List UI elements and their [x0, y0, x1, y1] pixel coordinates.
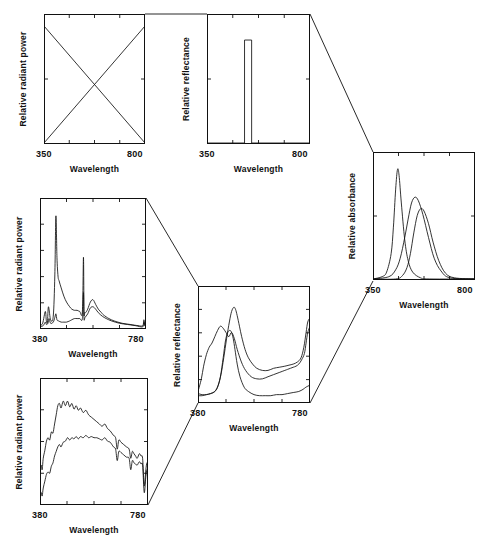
axis-label-y-0: Relative radiant power [18, 31, 28, 126]
axis-label-y-3: Relative radiant power [14, 216, 24, 311]
axis-tick-min-4: 380 [32, 510, 48, 520]
plot-curves [44, 14, 145, 144]
plot-curves [40, 378, 148, 505]
axis-label-y-2: Relative absorbance [347, 173, 357, 259]
panel-reflectance-samples [198, 286, 310, 403]
axis-tick-max-0: 800 [127, 149, 143, 159]
panel-illuminant-schematic [44, 14, 145, 144]
axis-label-y-4: Relative radiant power [14, 394, 24, 489]
panel-daylight-sources [40, 378, 148, 505]
series-lamp-1-triphosphor [40, 216, 146, 327]
axis-label-x-3: Wavelength [40, 349, 146, 359]
connector-samples-to-absorbance [310, 281, 373, 403]
axis-label-x-2: Wavelength [373, 300, 475, 310]
panel-fluorescent-lamps [40, 198, 146, 329]
axis-label-y-1: Relative reflectance [181, 37, 191, 121]
series-daylight-2-low [40, 435, 148, 499]
series-daylight-1-high [40, 401, 148, 486]
axis-tick-min-3: 380 [32, 334, 48, 344]
axis-tick-min-2: 350 [365, 285, 381, 295]
axis-tick-max-1: 800 [292, 149, 308, 159]
series-dye-1-short-wavelength [373, 169, 475, 279]
axis-label-x-5: Wavelength [198, 423, 310, 433]
series-sample-3-broad-mid [198, 307, 310, 395]
plot-curves [373, 152, 475, 280]
connector-daylight-to-samples [148, 403, 198, 505]
series-lamp-2-halophosphate [40, 293, 146, 327]
axis-tick-max-4: 780 [130, 510, 146, 520]
axis-tick-max-2: 800 [457, 285, 473, 295]
spectral-figure: Relative radiant power Wavelength 350 80… [0, 0, 496, 546]
series-rectangular-band [207, 40, 310, 143]
axis-tick-min-0: 350 [36, 149, 52, 159]
connector-lamps-to-samples [146, 198, 198, 286]
plot-curves [207, 14, 310, 144]
series-sample-2-green-peak [198, 330, 310, 395]
connector-reflectance-to-absorbance [310, 14, 373, 152]
plot-curves [40, 198, 146, 329]
axis-label-y-5: Relative reflectance [172, 303, 182, 387]
axis-tick-max-5: 780 [292, 408, 308, 418]
axis-label-x-1: Wavelength [207, 164, 310, 174]
axis-label-x-0: Wavelength [44, 164, 145, 174]
axis-label-x-4: Wavelength [40, 525, 148, 535]
panel-absorbance-dyes [373, 152, 475, 280]
series-sample-1-blue-green [198, 326, 310, 391]
axis-tick-max-3: 780 [128, 334, 144, 344]
plot-curves [198, 286, 310, 403]
axis-tick-min-1: 350 [199, 149, 215, 159]
panel-reflectance-schematic [207, 14, 310, 144]
axis-tick-min-5: 380 [190, 408, 206, 418]
